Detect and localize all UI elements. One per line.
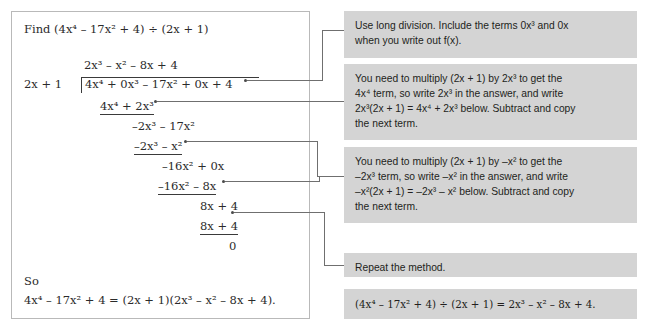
callout-3-line-1: You need to multiply (2x + 1) by –x² to … <box>355 154 627 169</box>
connector-2-h <box>157 101 344 102</box>
callout-multiply-by-2x3: You need to multiply (2x + 1) by 2x³ to … <box>344 64 637 140</box>
callout-1-line-1: Use long division. Include the terms 0x³… <box>355 18 627 33</box>
step-1-subtrahend: 4x⁴ + 2x³ <box>100 99 154 115</box>
callout-5-line-1: (4x⁴ – 17x² + 4) ÷ (2x + 1) = 2x³ – x² –… <box>355 297 627 312</box>
callout-2-line-1: You need to multiply (2x + 1) by 2x³ to … <box>355 71 627 86</box>
callout-3-line-4: the next term. <box>355 199 627 214</box>
connector-4-h <box>225 181 320 182</box>
connector-3-v1 <box>317 141 318 176</box>
connector-5-h1 <box>234 212 325 213</box>
step-3-subtrahend: –16x² – 8x <box>158 179 216 195</box>
connector-3-h2 <box>317 176 344 177</box>
worked-example-panel: Find (4x⁴ – 17x² + 4) ÷ (2x + 1) 2x³ – x… <box>11 11 310 319</box>
so-label: So <box>24 274 39 288</box>
conclusion-line: 4x⁴ – 17x² + 4 = (2x + 1)(2x³ – x² – 8x … <box>24 293 276 307</box>
dividend: 4x⁴ + 0x³ – 17x² + 0x + 4 <box>85 77 233 91</box>
callout-3-line-2: –2x³ term, so write –x² in the answer, a… <box>355 169 627 184</box>
connector-5-h2 <box>324 265 344 266</box>
connector-3-h1 <box>187 141 318 142</box>
worked-example-figure: Find (4x⁴ – 17x² + 4) ÷ (2x + 1) 2x³ – x… <box>0 0 650 334</box>
callout-repeat: Repeat the method. <box>344 253 637 277</box>
quotient-line: 2x³ – x² – 8x + 4 <box>84 58 178 72</box>
callout-result: (4x⁴ – 17x² + 4) ÷ (2x + 1) = 2x³ – x² –… <box>344 289 637 319</box>
callout-2-line-4: the next term. <box>355 116 627 131</box>
callout-2-line-2: 4x⁴ term, so write 2x³ in the answer, an… <box>355 86 627 101</box>
step-4-remainder: 0 <box>229 239 236 253</box>
callout-4-line-1: Repeat the method. <box>355 260 627 275</box>
callout-2-line-3: 2x³(2x + 1) = 4x⁴ + 2x³ below. Subtract … <box>355 101 627 116</box>
connector-1-h2 <box>322 30 344 31</box>
connector-5-v <box>324 212 325 265</box>
callout-3-line-3: –x²(2x + 1) = –2x³ – x² below. Subtract … <box>355 184 627 199</box>
step-2-subtrahend: –2x³ – x² <box>134 139 182 155</box>
callout-use-long-division: Use long division. Include the terms 0x³… <box>344 11 637 58</box>
callout-multiply-by-minus-x2: You need to multiply (2x + 1) by –x² to … <box>344 147 637 223</box>
problem-statement: Find (4x⁴ – 17x² + 4) ÷ (2x + 1) <box>24 22 209 36</box>
step-4-subtrahend: 8x + 4 <box>200 219 238 235</box>
division-bracket-stem <box>81 77 83 93</box>
divisor: 2x + 1 <box>24 77 62 91</box>
connector-1-v <box>322 30 323 81</box>
step-1-remainder: –2x³ – 17x² <box>132 119 195 133</box>
step-2-remainder: –16x² + 0x <box>162 159 224 173</box>
connector-1-h1 <box>247 80 322 81</box>
connector-4-v <box>319 176 320 182</box>
callout-1-line-2: when you write out f(x). <box>355 33 627 48</box>
